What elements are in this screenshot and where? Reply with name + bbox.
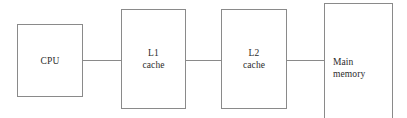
node-main-memory: Main memory xyxy=(324,3,393,118)
node-l1-cache-label: L1 cache xyxy=(142,47,164,71)
node-l2-cache: L2 cache xyxy=(221,9,287,109)
node-l1-cache: L1 cache xyxy=(121,9,186,109)
node-main-memory-label: Main memory xyxy=(333,56,365,80)
node-cpu-label: CPU xyxy=(41,55,60,67)
connector-l2-cache-to-main-memory xyxy=(286,60,325,61)
memory-hierarchy-diagram: CPU L1 cache L2 cache Main memory xyxy=(0,0,407,118)
connector-l1-cache-to-l2-cache xyxy=(185,60,222,61)
node-cpu: CPU xyxy=(17,24,83,97)
node-l2-cache-label: L2 cache xyxy=(243,47,265,71)
connector-cpu-to-l1-cache xyxy=(82,60,122,61)
